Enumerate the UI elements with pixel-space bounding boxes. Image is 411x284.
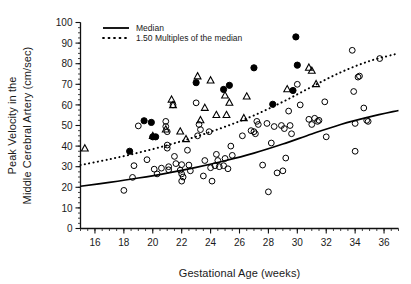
y-axis-tick-label: 100 (56, 17, 73, 28)
data-point-open-circle (179, 162, 185, 168)
x-axis-tick-label: 24 (205, 237, 217, 248)
data-point-open-circle (322, 99, 328, 105)
data-point-open-circle (135, 123, 141, 129)
data-point-open-circle (361, 105, 367, 111)
data-point-filled-circle (141, 118, 147, 124)
data-point-open-circle (352, 121, 358, 127)
data-point-open-circle (202, 158, 208, 164)
data-point-open-circle (289, 131, 295, 137)
data-point-open-circle (274, 170, 280, 176)
data-point-open-triangle (213, 111, 220, 117)
data-point-filled-circle (290, 87, 296, 93)
data-point-filled-circle (226, 82, 232, 88)
y-axis-tick-label: 0 (67, 223, 73, 234)
y-axis-title-line1: Peak Velocity in the (6, 76, 18, 174)
data-point-open-triangle (240, 114, 247, 120)
data-point-open-triangle (243, 93, 250, 99)
data-point-open-circle (131, 163, 137, 169)
data-point-open-circle (239, 133, 245, 139)
x-axis-tick-label: 20 (147, 237, 159, 248)
data-point-open-circle (349, 47, 355, 53)
data-point-open-circle (185, 147, 191, 153)
data-point-open-circle (213, 151, 219, 157)
y-axis-tick-label: 60 (61, 100, 73, 111)
x-axis-tick-label: 18 (118, 237, 130, 248)
data-point-filled-circle (193, 80, 199, 86)
data-point-open-circle (198, 127, 204, 133)
data-point-open-circle (200, 173, 206, 179)
data-point-open-circle (144, 157, 150, 163)
data-point-open-circle (172, 154, 178, 160)
data-point-filled-circle (221, 86, 227, 92)
x-axis-tick-label: 36 (378, 237, 390, 248)
data-point-open-circle (186, 162, 192, 168)
data-point-open-triangle (201, 104, 208, 110)
data-point-open-triangle (194, 73, 201, 79)
y-axis-tick-label: 10 (61, 203, 73, 214)
data-point-open-circle (206, 129, 212, 135)
data-point-open-circle (173, 161, 179, 167)
y-axis-tick-label: 70 (61, 79, 73, 90)
data-point-open-circle (351, 89, 357, 95)
data-point-open-circle (264, 121, 270, 127)
data-point-filled-circle (294, 62, 300, 68)
data-point-filled-circle (293, 34, 299, 40)
data-point-open-circle (352, 148, 358, 154)
data-point-open-circle (297, 102, 303, 108)
data-point-open-triangle (177, 128, 184, 134)
data-point-filled-circle (148, 119, 154, 125)
scatter-plot: 0102030405060708090100161820222426283032… (0, 0, 411, 284)
data-point-open-circle (294, 81, 300, 87)
y-axis-tick-label: 30 (61, 161, 73, 172)
legend-label-multiples: 1.50 Multiples of the median (136, 33, 243, 43)
data-point-open-triangle (207, 77, 214, 83)
data-point-open-circle (225, 166, 231, 172)
x-axis-tick-label: 28 (263, 237, 275, 248)
data-point-open-triangle (284, 86, 291, 92)
y-axis-tick-label: 40 (61, 141, 73, 152)
y-axis-tick-label: 80 (61, 58, 73, 69)
data-point-open-circle (323, 134, 329, 140)
x-axis-tick-label: 32 (321, 237, 333, 248)
data-point-open-circle (260, 162, 266, 168)
legend-label-median: Median (136, 23, 164, 33)
data-point-filled-circle (127, 148, 133, 154)
data-point-open-triangle (223, 111, 230, 117)
data-point-open-triangle (81, 145, 88, 151)
data-point-open-circle (228, 143, 234, 149)
data-point-open-circle (287, 123, 293, 129)
data-point-filled-circle (251, 65, 257, 71)
chart-figure: 0102030405060708090100161820222426283032… (0, 0, 411, 284)
data-point-open-circle (121, 187, 127, 193)
data-point-open-circle (159, 165, 165, 171)
data-point-filled-circle (270, 101, 276, 107)
data-point-open-circle (229, 152, 235, 158)
x-axis-tick-label: 16 (89, 237, 101, 248)
data-point-open-triangle (183, 135, 190, 141)
data-point-open-circle (193, 100, 199, 106)
data-point-open-triangle (168, 96, 175, 102)
y-axis-tick-label: 90 (61, 38, 73, 49)
data-point-open-triangle (226, 99, 233, 105)
y-axis-tick-label: 50 (61, 120, 73, 131)
data-point-open-circle (283, 155, 289, 161)
x-axis-tick-label: 22 (176, 237, 188, 248)
x-axis-tick-label: 26 (234, 237, 246, 248)
y-axis-title-line2: Middle Cerebral Artery (cm/sec) (21, 47, 33, 205)
data-point-open-circle (209, 178, 215, 184)
data-point-open-circle (286, 108, 292, 114)
data-point-open-circle (268, 140, 274, 146)
x-axis-title: Gestational Age (weeks) (179, 267, 301, 279)
data-point-open-circle (271, 124, 277, 130)
data-point-open-circle (309, 122, 315, 128)
y-axis-tick-label: 20 (61, 182, 73, 193)
data-point-open-circle (280, 168, 286, 174)
x-axis-tick-label: 30 (292, 237, 304, 248)
x-axis-tick-label: 34 (350, 237, 362, 248)
data-point-open-circle (266, 189, 272, 195)
